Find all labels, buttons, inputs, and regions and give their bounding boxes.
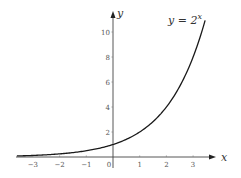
function-label: y = 2x — [167, 12, 202, 27]
x-tick-label: 0 — [107, 161, 111, 169]
y-tick-label: 8 — [106, 54, 110, 62]
y-tick-label: 4 — [106, 104, 111, 112]
y-tick-label: 2 — [106, 129, 110, 137]
x-ticks: −3−2−10123 — [28, 156, 196, 170]
function-label-base: y = 2 — [167, 14, 197, 27]
y-tick-label: 10 — [101, 29, 110, 37]
x-axis-arrow-icon — [209, 155, 216, 160]
x-tick-label: −3 — [28, 161, 38, 169]
y-axis-label: y — [116, 7, 124, 20]
exponential-curve — [17, 20, 205, 156]
x-tick-label: 2 — [164, 161, 168, 169]
x-tick-label: 3 — [191, 161, 195, 169]
exponential-function-chart: x y −3−2−10123 246810 y = 2x — [0, 0, 241, 178]
x-tick-label: 1 — [137, 161, 141, 169]
x-axis-label: x — [221, 151, 228, 164]
y-axis-arrow-icon — [111, 11, 116, 18]
y-ticks: 246810 — [101, 29, 113, 137]
y-tick-label: 6 — [106, 79, 111, 87]
function-label-exponent: x — [197, 12, 202, 21]
x-tick-label: −2 — [54, 161, 64, 169]
x-tick-label: −1 — [81, 161, 91, 169]
